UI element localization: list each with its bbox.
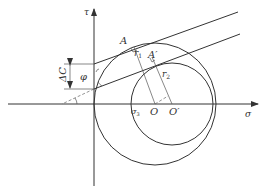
point-a-prime-label: A′ [147, 49, 158, 60]
offset-connector [155, 96, 168, 104]
phi-angle-arc-3 [75, 98, 77, 104]
sigma-label: σ [245, 109, 252, 119]
envelope-extension [62, 89, 94, 104]
delta-c-label: ΔC [57, 67, 68, 83]
point-a-label: A [119, 35, 127, 46]
mohr-diagram: τ σ A A′ r1 r2 σ3 O O′ ΔC φ [0, 0, 263, 196]
r1-label: r1 [134, 48, 142, 59]
phi-angle-arc-1 [96, 69, 99, 72]
tau-label: τ [84, 7, 90, 17]
phi-label: φ [80, 71, 87, 82]
envelope-line-1 [94, 12, 238, 64]
phi-angle-arc-2 [98, 82, 102, 86]
envelope-line-2 [94, 34, 240, 89]
r2-label: r2 [162, 69, 170, 80]
sigma3-label: σ3 [131, 107, 140, 117]
point-o-prime-label: O′ [169, 106, 180, 117]
point-o-label: O [150, 106, 158, 117]
